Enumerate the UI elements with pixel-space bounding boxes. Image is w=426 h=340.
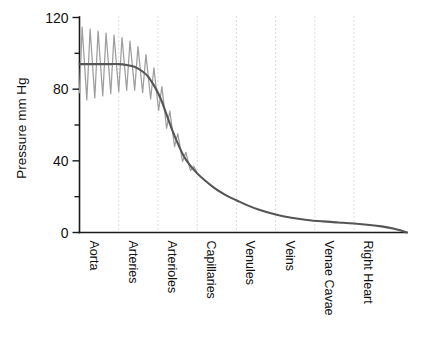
x-category-label-aorta: Aorta	[87, 241, 101, 271]
y-axis-ticks	[73, 18, 80, 233]
mean-pressure-line	[80, 64, 408, 232]
chart-svg: 04080120 AortaArteriesArteriolesCapillar…	[0, 0, 426, 340]
y-tick-label-80: 80	[53, 81, 69, 97]
y-tick-label-40: 40	[53, 153, 69, 169]
x-category-label-venae-cavae: Venae Cavae	[322, 241, 336, 316]
y-axis-title: Pressure mm Hg	[14, 77, 29, 178]
x-axis-category-labels: AortaArteriesArteriolesCapillariesVenule…	[87, 241, 376, 316]
x-category-label-veins: Veins	[283, 241, 297, 272]
x-category-label-arterioles: Arterioles	[165, 241, 179, 294]
x-category-label-arteries: Arteries	[126, 241, 140, 284]
plot-series	[80, 27, 408, 232]
y-axis-tick-labels: 04080120	[45, 10, 69, 241]
x-category-label-capillaries: Capillaries	[204, 241, 218, 299]
axes	[79, 17, 407, 233]
y-tick-label-120: 120	[45, 10, 69, 26]
y-tick-label-0: 0	[61, 225, 69, 241]
x-category-label-right-heart: Right Heart	[361, 241, 375, 305]
x-category-label-venules: Venules	[243, 241, 257, 285]
gridlines	[80, 17, 355, 233]
blood-pressure-chart: 04080120 AortaArteriesArteriolesCapillar…	[0, 0, 426, 340]
